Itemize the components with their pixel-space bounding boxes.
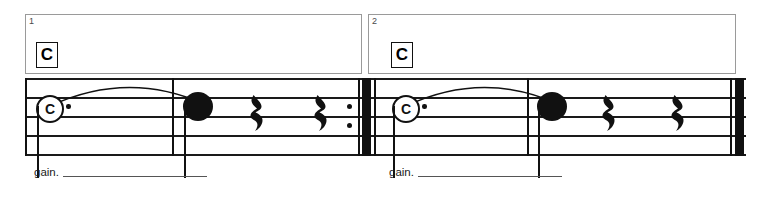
barline-final-thin [730, 78, 732, 156]
technique-extender-line-1 [63, 176, 207, 177]
measure-bracket-2: 2 [368, 14, 736, 74]
staff-line-2 [25, 135, 746, 137]
measure-number-2: 2 [372, 16, 377, 26]
chord-symbol-label-2: C [396, 45, 408, 65]
notehead-filled-1[interactable] [183, 92, 213, 121]
notehead-circled-1[interactable]: C [36, 95, 64, 123]
barline-start-measure-2 [374, 78, 376, 156]
augmentation-dot-1 [66, 104, 71, 109]
barline-repeat-thin-1 [358, 78, 360, 156]
barline-inner-measure-1 [172, 78, 174, 156]
notehead-label-1: C [45, 101, 55, 117]
barline-repeat-thick-1 [362, 78, 371, 156]
quarter-rest-3[interactable] [601, 93, 619, 133]
quarter-rest-1[interactable] [249, 93, 267, 133]
barline-final-thick [735, 78, 744, 156]
note-stem-4 [538, 106, 540, 178]
quarter-rest-4[interactable] [670, 93, 688, 133]
music-score-sheet: 1 C 2 C C g [0, 0, 757, 197]
notehead-filled-2[interactable] [537, 92, 567, 121]
barline-start-measure-1 [25, 78, 27, 156]
repeat-dot-lower-1 [347, 123, 352, 128]
quarter-rest-2[interactable] [313, 93, 331, 133]
chord-symbol-box-2[interactable]: C [391, 42, 413, 68]
measure-number-1: 1 [29, 16, 34, 26]
barline-inner-measure-2 [527, 78, 529, 156]
staff-line-1 [25, 154, 746, 156]
repeat-dot-upper-1 [347, 104, 352, 109]
notehead-label-2: C [401, 101, 411, 117]
augmentation-dot-2 [422, 104, 427, 109]
staff-line-3 [25, 116, 746, 118]
note-stem-2 [184, 106, 186, 178]
measure-bracket-1: 1 [25, 14, 362, 74]
technique-extender-line-2 [418, 176, 562, 177]
technique-text-1: gain. [34, 166, 59, 178]
chord-symbol-box-1[interactable]: C [36, 42, 58, 68]
notehead-circled-2[interactable]: C [392, 95, 420, 123]
technique-text-2: gain. [389, 166, 414, 178]
chord-symbol-label-1: C [41, 45, 53, 65]
